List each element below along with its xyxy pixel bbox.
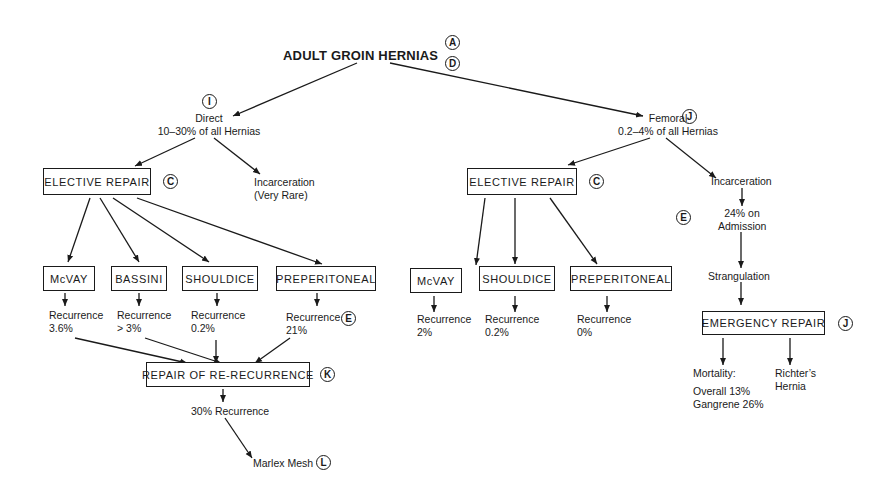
direct-elective-repair-box: ELECTIVE REPAIR (43, 168, 151, 195)
reference-marker-e: E (341, 311, 356, 326)
reference-marker-k: K (320, 367, 335, 382)
femoral-hernia-name: Femoral (612, 112, 724, 125)
direct-hernia-node: Direct 10–30% of all Hernias (150, 112, 268, 138)
reference-marker-j-emergency: J (838, 316, 853, 331)
admission-rate: 24% on Admission (718, 207, 766, 233)
direct-mcvay-recurrence: Recurrence 3.6% (49, 309, 103, 335)
femoral-preperitoneal-box: PREPERITONEAL (570, 266, 672, 291)
direct-shouldice-recurrence: Recurrence 0.2% (191, 309, 245, 335)
reference-marker-e-femoral: E (676, 210, 691, 225)
recurrence-value: 21% (286, 324, 340, 337)
richter-line-2: Hernia (775, 380, 816, 393)
femoral-mcvay-box: McVAY (410, 268, 462, 293)
reference-marker-d: D (445, 56, 460, 71)
direct-mcvay-box: McVAY (43, 266, 95, 291)
direct-hernia-name: Direct (150, 112, 268, 125)
direct-hernia-incidence: 10–30% of all Hernias (150, 125, 268, 138)
recurrence-label: Recurrence (417, 313, 471, 326)
recurrence-value: 2% (417, 326, 471, 339)
mortality-gangrene: Gangrene 26% (693, 398, 764, 411)
femoral-elective-repair-box: ELECTIVE REPAIR (467, 168, 577, 195)
femoral-hernia-node: Femoral 0.2–4% of all Hernias (612, 112, 724, 138)
strangulation-label: Strangulation (708, 270, 770, 283)
direct-incarceration-note: (Very Rare) (254, 189, 315, 202)
reference-marker-c: C (163, 174, 178, 189)
reference-marker-l: L (316, 455, 331, 470)
re-recurrence-outcome: 30% Recurrence (191, 405, 269, 418)
recurrence-value: 3.6% (49, 322, 103, 335)
richter-line-1: Richter’s (775, 367, 816, 380)
recurrence-value: > 3% (117, 322, 171, 335)
reference-marker-j: J (682, 109, 697, 124)
femoral-shouldice-recurrence: Recurrence 0.2% (485, 313, 539, 339)
direct-bassini-box: BASSINI (111, 266, 167, 291)
mortality-label: Mortality: (693, 367, 736, 380)
recurrence-label: Recurrence (485, 313, 539, 326)
admission-rate-label: Admission (718, 220, 766, 233)
reference-marker-c-femoral: C (589, 174, 604, 189)
mortality-overall: Overall 13% (693, 385, 764, 398)
diagram-title: ADULT GROIN HERNIAS (283, 48, 438, 63)
femoral-hernia-incidence: 0.2–4% of all Hernias (612, 125, 724, 138)
direct-bassini-recurrence: Recurrence > 3% (117, 309, 171, 335)
recurrence-label: Recurrence (49, 309, 103, 322)
emergency-repair-box: EMERGENCY REPAIR (702, 311, 825, 335)
connector-arrows (0, 0, 896, 492)
direct-incarceration-node: Incarceration (Very Rare) (254, 176, 315, 202)
femoral-mcvay-recurrence: Recurrence 2% (417, 313, 471, 339)
admission-rate-value: 24% on (718, 207, 766, 220)
richters-hernia-label: Richter’s Hernia (775, 367, 816, 393)
marlex-mesh-label: Marlex Mesh (253, 457, 313, 470)
recurrence-value: 0% (577, 326, 631, 339)
reference-marker-i: I (202, 94, 217, 109)
recurrence-label: Recurrence (191, 309, 245, 322)
mortality-values: Overall 13% Gangrene 26% (693, 385, 764, 411)
reference-marker-a: A (445, 35, 460, 50)
recurrence-label: Recurrence (577, 313, 631, 326)
femoral-preperitoneal-recurrence: Recurrence 0% (577, 313, 631, 339)
recurrence-label: Recurrence (286, 311, 340, 324)
recurrence-value: 0.2% (191, 322, 245, 335)
femoral-incarceration-label: Incarceration (711, 175, 772, 188)
repair-of-re-recurrence-box: REPAIR OF RE-RECURRENCE (146, 362, 310, 387)
direct-preperitoneal-recurrence: Recurrence 21% (286, 311, 340, 337)
recurrence-label: Recurrence (117, 309, 171, 322)
recurrence-value: 0.2% (485, 326, 539, 339)
direct-incarceration-label: Incarceration (254, 176, 315, 189)
direct-preperitoneal-box: PREPERITONEAL (276, 266, 376, 291)
direct-shouldice-box: SHOULDICE (182, 266, 258, 291)
femoral-shouldice-box: SHOULDICE (479, 266, 555, 291)
